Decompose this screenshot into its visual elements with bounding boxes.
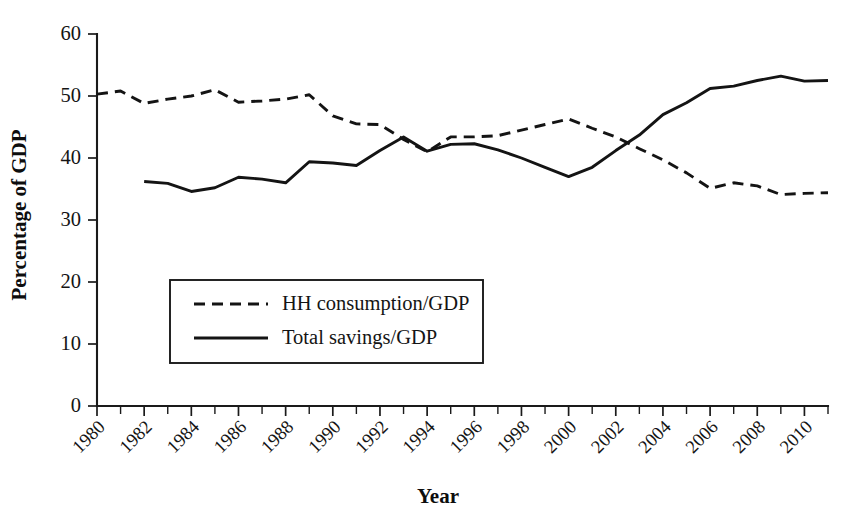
x-tick-label: 1996	[446, 417, 486, 457]
x-tick-label: 1998	[493, 417, 533, 457]
x-axis-title: Year	[417, 484, 459, 508]
series-line-total-savings-gdp	[144, 76, 828, 191]
x-tick-label: 1980	[69, 417, 109, 457]
chart-legend[interactable]: HH consumption/GDPTotal savings/GDP	[170, 280, 483, 363]
x-tick-label: 1986	[210, 417, 250, 457]
chart-figure: 0102030405060 19801982198419861988199019…	[0, 0, 844, 518]
y-tick-label: 30	[61, 208, 82, 230]
x-tick-label: 2006	[682, 417, 722, 457]
legend-label-1[interactable]: HH consumption/GDP	[282, 292, 469, 315]
x-tick-label: 1990	[304, 417, 344, 457]
x-tick-label: 1984	[163, 417, 203, 457]
x-tick-label: 2000	[540, 417, 580, 457]
y-tick-label: 60	[61, 22, 82, 44]
y-axis-title: Percentage of GDP	[7, 129, 31, 300]
x-tick-label: 2010	[776, 417, 816, 457]
x-tick-label: 1994	[399, 417, 439, 457]
y-tick-label: 20	[61, 270, 82, 292]
y-axis-tick-labels: 0102030405060	[61, 22, 82, 416]
line-chart: 0102030405060 19801982198419861988199019…	[0, 0, 844, 518]
x-tick-label: 2008	[729, 417, 769, 457]
y-tick-label: 50	[61, 84, 82, 106]
y-tick-label: 40	[61, 146, 82, 168]
data-series	[97, 76, 828, 194]
x-tick-label: 1992	[351, 417, 391, 457]
legend-label-2[interactable]: Total savings/GDP	[282, 326, 437, 349]
series-line-hh-consumption-gdp	[97, 90, 828, 195]
x-axis-tick-labels: 1980198219841986198819901992199419961998…	[69, 417, 817, 457]
x-tick-label: 2002	[587, 417, 627, 457]
x-tick-label: 1982	[116, 417, 156, 457]
x-tick-label: 1988	[257, 417, 297, 457]
y-tick-label: 10	[61, 332, 82, 354]
y-tick-label: 0	[71, 394, 81, 416]
x-tick-label: 2004	[634, 417, 674, 457]
